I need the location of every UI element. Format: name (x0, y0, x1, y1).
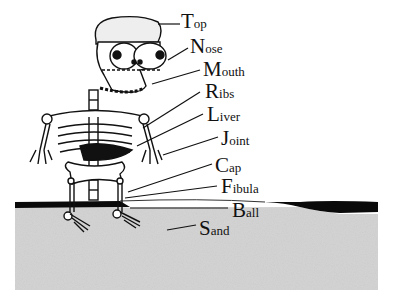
label-sand: Sand (199, 218, 229, 239)
label-mouth: Mouth (203, 59, 245, 80)
liver (80, 144, 132, 161)
label-liver: Liver (207, 104, 240, 125)
label-joint: Joint (221, 128, 249, 149)
label-ribs: Ribs (205, 81, 234, 102)
label-cap: Cap (215, 155, 241, 176)
label-ball: Ball (232, 200, 259, 221)
skeleton (30, 17, 166, 232)
skull-top (95, 17, 161, 44)
label-nose: Nose (190, 36, 223, 57)
label-top: Top (181, 11, 207, 32)
skeleton-diagram: Top Nose Mouth Ribs Liver Joint Cap Fibu… (0, 0, 394, 299)
label-fibula: Fibula (221, 176, 259, 197)
